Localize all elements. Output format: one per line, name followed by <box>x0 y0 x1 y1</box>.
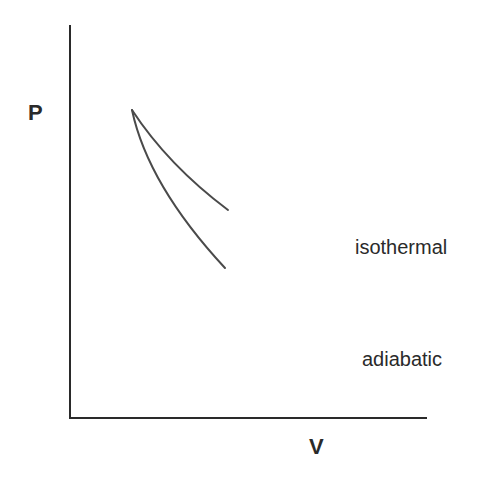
adiabatic-curve <box>132 110 225 268</box>
adiabatic-label: adiabatic <box>362 348 442 371</box>
x-axis-label: V <box>309 434 324 460</box>
y-axis-label: P <box>28 100 43 126</box>
isothermal-label: isothermal <box>355 236 447 259</box>
isothermal-curve <box>132 110 228 210</box>
